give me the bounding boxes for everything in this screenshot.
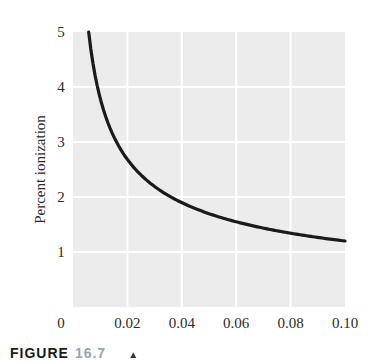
plot-background	[73, 32, 345, 307]
x-tick-label: 0.02	[114, 315, 140, 331]
triangle-marker-icon: ▲	[128, 349, 139, 360]
x-tick-label: 0	[57, 315, 65, 331]
y-axis-label: Percent ionization	[32, 115, 48, 224]
x-tick-label: 0.06	[223, 315, 250, 331]
x-tick-label: 0.08	[277, 315, 303, 331]
caption-label: FIGURE	[10, 345, 69, 361]
figure-caption: FIGURE16.7▲	[10, 345, 139, 361]
x-tick-label: 0.10	[332, 315, 358, 331]
caption-number: 16.7	[75, 345, 106, 361]
y-tick-label: 3	[57, 134, 65, 150]
percent-ionization-chart: 12345 00.020.040.060.080.10 Percent ioni…	[0, 0, 372, 340]
x-tick-label: 0.04	[169, 315, 196, 331]
y-tick-label: 2	[57, 189, 65, 205]
x-axis-ticks: 00.020.040.060.080.10	[57, 315, 358, 331]
y-tick-label: 4	[57, 79, 65, 95]
y-axis-ticks: 12345	[57, 24, 65, 260]
y-tick-label: 5	[57, 24, 65, 40]
y-tick-label: 1	[57, 244, 65, 260]
